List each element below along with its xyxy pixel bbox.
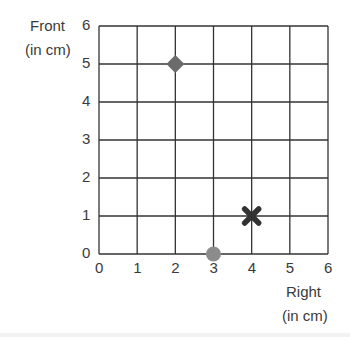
- grid-plot: [0, 0, 350, 337]
- diamond-marker: [166, 55, 184, 73]
- circle-marker: [206, 247, 221, 262]
- bottom-divider: [0, 333, 350, 337]
